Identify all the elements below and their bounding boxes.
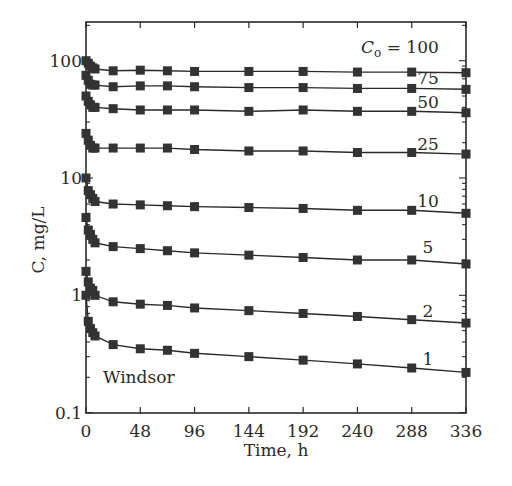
data-point-marker [136,200,145,209]
y-axis-title: C, mg/L [28,206,48,273]
y-tick-label: 10 [60,168,82,188]
site-annotation: Windsor [103,367,175,387]
data-point-marker [244,306,253,315]
data-point-marker [299,146,308,155]
data-point-marker [407,148,416,157]
y-tick-label: 1 [71,285,82,305]
data-point-marker [462,150,471,159]
data-point-marker [299,309,308,318]
data-point-marker [353,359,362,368]
data-point-marker [109,340,118,349]
legend-eq: = [381,37,406,57]
data-point-marker [91,144,100,153]
data-point-marker [190,67,199,76]
data-point-marker [163,144,172,153]
data-point-marker [407,364,416,373]
data-point-marker [190,248,199,257]
data-point-marker [163,105,172,114]
x-axis-title: Time, h [244,440,309,460]
series-25 [82,129,471,159]
data-point-marker [190,105,199,114]
data-series [82,56,471,377]
data-point-marker [136,66,145,75]
data-point-marker [353,206,362,215]
data-point-marker [163,246,172,255]
data-point-marker [462,68,471,77]
data-point-marker [109,66,118,75]
data-point-marker [163,301,172,310]
data-point-marker [353,107,362,116]
data-point-marker [462,368,471,377]
x-tick-label: 336 [450,421,482,441]
data-point-marker [462,259,471,268]
data-point-marker [407,68,416,77]
chart: 04896144192240288336 0.1110100 755025105… [0,0,512,486]
data-point-marker [109,82,118,91]
data-point-marker [109,297,118,306]
x-tick-label: 144 [233,421,265,441]
data-point-marker [353,68,362,77]
data-point-marker [190,349,199,358]
series-5 [82,213,471,268]
data-point-marker [190,145,199,154]
legend-prefix-sub: o [374,46,381,60]
x-tick-label: 96 [184,421,206,441]
series-labels: 75502510521 [417,68,439,369]
data-point-marker [462,209,471,218]
data-point-marker [353,84,362,93]
data-point-marker [91,331,100,340]
data-point-marker [109,242,118,251]
data-point-marker [190,303,199,312]
series-label: 2 [423,301,434,321]
x-tick-label: 192 [287,421,319,441]
data-point-marker [163,81,172,90]
x-tick-label: 240 [341,421,373,441]
data-point-marker [407,84,416,93]
data-point-marker [407,315,416,324]
data-point-marker [136,144,145,153]
series-label: 100 [406,37,438,57]
legend-title: Co = 100 [361,37,439,60]
series-label: 50 [417,92,439,112]
x-tick-label: 48 [129,421,151,441]
data-point-marker [462,108,471,117]
data-point-marker [109,200,118,209]
data-point-marker [244,203,253,212]
data-point-marker [462,319,471,328]
data-point-marker [299,105,308,114]
data-point-marker [299,67,308,76]
data-point-marker [353,312,362,321]
data-point-marker [407,255,416,264]
data-point-marker [299,204,308,213]
data-point-marker [353,148,362,157]
data-point-marker [244,352,253,361]
data-point-marker [109,144,118,153]
data-point-marker [82,291,91,300]
x-tick-label: 288 [395,421,427,441]
series-100 [82,56,471,77]
data-point-marker [163,201,172,210]
data-point-marker [91,291,100,300]
series-label: 10 [417,191,439,211]
data-point-marker [163,66,172,75]
data-point-marker [244,146,253,155]
data-point-marker [82,213,91,222]
data-point-marker [136,344,145,353]
series-50 [82,92,471,118]
data-point-marker [163,346,172,355]
data-point-marker [244,83,253,92]
data-point-marker [462,85,471,94]
series-10 [82,174,471,218]
data-point-marker [82,267,91,276]
series-2 [82,267,471,328]
data-point-marker [407,206,416,215]
data-point-marker [299,83,308,92]
data-point-marker [244,107,253,116]
data-point-marker [353,255,362,264]
data-point-marker [244,251,253,260]
data-point-marker [299,356,308,365]
data-point-marker [91,197,100,206]
data-point-marker [407,107,416,116]
data-point-marker [299,253,308,262]
y-tick-label: 100 [50,51,82,71]
